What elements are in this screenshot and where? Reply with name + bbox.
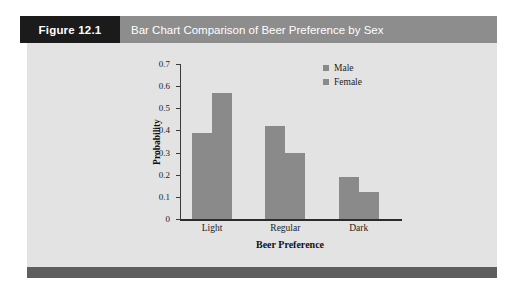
figure-title-text: Bar Chart Comparison of Beer Preference … <box>131 24 383 36</box>
figure-footer-bar <box>27 267 497 278</box>
y-axis-tick-label: 0.3 <box>159 148 170 158</box>
bar-male-light <box>192 133 212 219</box>
y-axis-tick: 0.7 <box>176 64 181 65</box>
chart-legend: MaleFemale <box>323 63 362 91</box>
bar-chart: Probability 0.70.60.50.40.30.20.10 Light… <box>27 43 497 267</box>
bar-female-regular <box>285 153 305 219</box>
plot-area: Probability 0.70.60.50.40.30.20.10 Light… <box>180 64 400 219</box>
y-axis-tick: 0.3 <box>176 153 181 154</box>
y-axis-tick-label: 0 <box>166 214 171 224</box>
figure-title-block: Bar Chart Comparison of Beer Preference … <box>120 16 497 43</box>
legend-label: Male <box>334 63 354 73</box>
legend-swatch-icon <box>323 65 329 71</box>
bar-female-dark <box>359 192 379 219</box>
x-axis-title: Beer Preference <box>256 239 324 250</box>
x-axis-line <box>180 219 402 221</box>
figure-body-panel: Probability 0.70.60.50.40.30.20.10 Light… <box>27 43 497 267</box>
y-axis-tick: 0.6 <box>176 86 181 87</box>
x-axis-tick-label: Light <box>202 223 223 233</box>
bar-male-dark <box>339 177 359 219</box>
figure-number-block: Figure 12.1 <box>20 16 120 43</box>
y-axis-tick-label: 0.6 <box>159 81 170 91</box>
y-axis-tick-label: 0.2 <box>159 170 170 180</box>
x-axis-tick-label: Dark <box>349 223 368 233</box>
figure-caption-bar: Figure 12.1 Bar Chart Comparison of Beer… <box>20 16 497 43</box>
figure-number-label: Figure 12.1 <box>39 24 102 36</box>
legend-item-female: Female <box>323 77 362 87</box>
y-axis-tick: 0.4 <box>176 130 181 131</box>
y-axis-tick: 0.1 <box>176 197 181 198</box>
y-axis-tick: 0 <box>176 219 181 220</box>
y-axis-tick-label: 0.5 <box>159 103 170 113</box>
y-axis-tick: 0.5 <box>176 108 181 109</box>
x-axis-tick-label: Regular <box>270 223 300 233</box>
legend-label: Female <box>334 77 362 87</box>
y-axis-tick-label: 0.1 <box>159 192 170 202</box>
legend-swatch-icon <box>323 79 329 85</box>
legend-item-male: Male <box>323 63 362 73</box>
bar-female-light <box>212 93 232 219</box>
y-axis-line <box>180 64 181 219</box>
y-axis-tick: 0.2 <box>176 175 181 176</box>
y-axis-tick-label: 0.7 <box>159 59 170 69</box>
y-axis-tick-label: 0.4 <box>159 125 170 135</box>
bar-male-regular <box>265 126 285 219</box>
